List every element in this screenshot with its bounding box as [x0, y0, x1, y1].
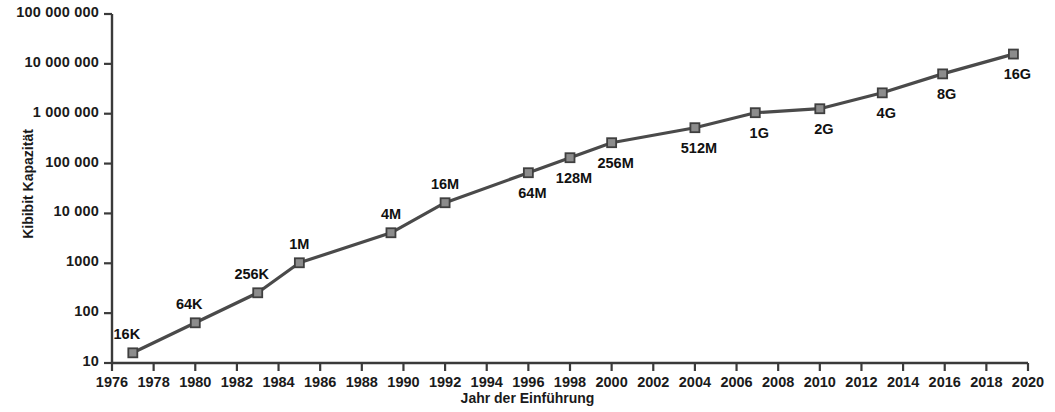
data-point-label: 1M	[259, 236, 339, 252]
y-tick-label: 100 000	[45, 154, 99, 170]
y-tick-label: 10 000 000	[24, 54, 99, 70]
y-tick-label: 1 000 000	[33, 104, 99, 120]
data-point-marker	[1009, 50, 1018, 59]
data-point-marker	[295, 258, 304, 267]
y-tick-label: 10	[82, 353, 99, 369]
x-axis-title: Jahr der Einführung	[0, 390, 1055, 406]
data-point-label: 16G	[977, 66, 1055, 82]
data-point-label: 4M	[351, 206, 431, 222]
data-point-label: 128M	[534, 170, 614, 186]
data-point-marker	[566, 153, 575, 162]
data-point-marker	[253, 288, 262, 297]
data-point-marker	[524, 168, 533, 177]
data-series-markers	[128, 50, 1018, 358]
data-point-label: 8G	[907, 86, 987, 102]
data-point-marker	[386, 228, 395, 237]
data-point-label: 4G	[846, 105, 926, 121]
data-point-marker	[191, 318, 200, 327]
data-point-label: 512M	[659, 140, 739, 156]
x-tick-label: 2020	[988, 374, 1055, 390]
data-series-line	[133, 54, 1014, 353]
plot-area	[0, 0, 1055, 412]
data-point-marker	[690, 123, 699, 132]
data-point-label: 64M	[492, 185, 572, 201]
data-point-marker	[878, 88, 887, 97]
data-point-label: 2G	[784, 121, 864, 137]
y-axis-title: Kibibit Kapazität	[20, 104, 36, 264]
data-point-marker	[607, 138, 616, 147]
y-tick-label: 10 000	[53, 203, 99, 219]
y-tick-label: 100	[74, 303, 99, 319]
data-point-marker	[751, 108, 760, 117]
data-point-marker	[938, 69, 947, 78]
data-point-marker	[128, 348, 137, 357]
data-point-label: 64K	[149, 296, 229, 312]
dram-capacity-chart: 10100100010 000100 0001 000 00010 000 00…	[0, 0, 1055, 412]
y-tick-label: 100 000 000	[16, 4, 99, 20]
data-point-marker	[441, 198, 450, 207]
y-tick-label: 1000	[66, 253, 99, 269]
data-point-label: 16K	[87, 326, 167, 342]
data-point-marker	[815, 104, 824, 113]
data-point-label: 256M	[576, 155, 656, 171]
x-axis-ticks	[112, 363, 1028, 371]
data-point-label: 256K	[212, 266, 292, 282]
data-point-label: 16M	[405, 176, 485, 192]
